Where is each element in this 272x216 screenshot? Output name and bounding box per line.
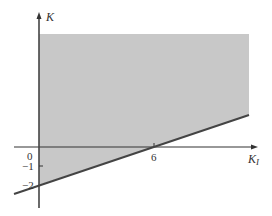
x-axis-arrow-icon <box>251 145 258 150</box>
x-axis-label: KI <box>247 152 260 167</box>
y-axis-label: K <box>45 10 55 24</box>
shaded-stable-region <box>39 34 249 185</box>
x-axis-label-subscript: I <box>255 157 260 167</box>
tick-label-y-minus2: −2 <box>22 179 34 191</box>
tick-label-x-6: 6 <box>151 151 157 163</box>
tick-label-y-minus1: −1 <box>22 160 34 172</box>
stability-region-diagram: K 0 −1 −2 6 KI <box>0 0 272 216</box>
y-axis-arrow-icon <box>37 12 42 19</box>
